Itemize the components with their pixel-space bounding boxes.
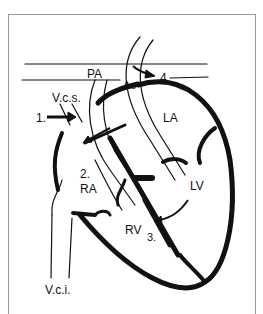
label-right-atrium: RA: [80, 183, 97, 195]
vci-right: [69, 218, 72, 278]
label-left-ventricle: LV: [190, 180, 204, 192]
label-vena-cava-superior: V.c.s.: [52, 92, 81, 104]
vcs-right: [72, 104, 82, 122]
label-vena-cava-inferior: V.c.i.: [45, 284, 71, 296]
ra-wall: [55, 133, 62, 190]
vci-left: [51, 215, 52, 278]
marker-2: 2.: [80, 168, 90, 180]
label-pulmonary-artery: PA: [87, 68, 102, 80]
label-aorta: Ao: [123, 80, 136, 91]
heart-outer-wall: [80, 82, 232, 288]
label-right-ventricle: RV: [125, 224, 141, 236]
guide-line-right: [170, 77, 208, 78]
marker-4: 4.: [160, 72, 170, 84]
arrow-3: [160, 200, 188, 220]
aorta-inner: [140, 40, 185, 175]
marker-1: 1.: [36, 112, 46, 124]
label-left-atrium: LA: [163, 112, 178, 124]
marker-3: 3.: [147, 232, 156, 243]
